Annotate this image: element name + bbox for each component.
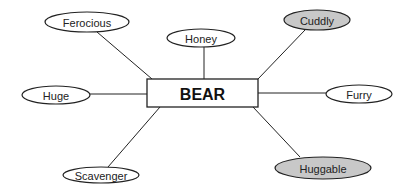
node-label-huge: Huge bbox=[43, 90, 69, 102]
node-label-furry: Furry bbox=[346, 89, 372, 101]
center-node: BEAR bbox=[147, 79, 258, 107]
node-ferocious: Ferocious bbox=[45, 12, 129, 32]
node-label-honey: Honey bbox=[185, 33, 217, 45]
connector-huggable bbox=[253, 107, 300, 157]
node-honey: Honey bbox=[167, 29, 235, 47]
center-label: BEAR bbox=[180, 86, 226, 103]
node-cuddly: Cuddly bbox=[284, 10, 350, 30]
node-scavenger: Scavenger bbox=[63, 167, 139, 183]
node-label-cuddly: Cuddly bbox=[300, 15, 335, 27]
connector-scavenger bbox=[108, 107, 160, 167]
word-web-diagram: FerociousHoneyCuddlyHugeFurryScavengerHu… bbox=[0, 0, 411, 189]
node-furry: Furry bbox=[326, 85, 392, 103]
node-label-ferocious: Ferocious bbox=[63, 17, 112, 29]
node-huge: Huge bbox=[22, 86, 90, 104]
connector-ferocious bbox=[97, 32, 152, 79]
diagram-canvas: FerociousHoneyCuddlyHugeFurryScavengerHu… bbox=[0, 0, 411, 189]
node-huggable: Huggable bbox=[275, 157, 371, 179]
node-label-huggable: Huggable bbox=[299, 163, 346, 175]
connector-cuddly bbox=[258, 30, 305, 79]
node-label-scavenger: Scavenger bbox=[75, 170, 128, 182]
